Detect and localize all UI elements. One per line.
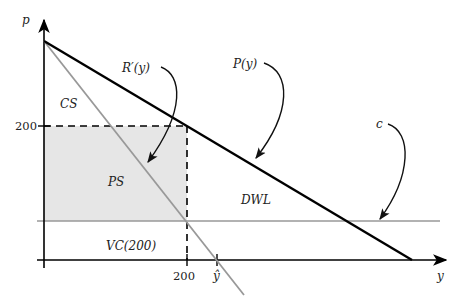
x-tick-label-y-hat: ŷ [212,269,220,283]
producer-surplus-region [44,126,187,221]
x-axis-label: y [436,269,444,283]
y-axis-label: p [22,13,30,27]
variable-cost-label: VC(200) [106,239,156,253]
marginal-cost-label: c [376,117,383,131]
demand-label: P(y) [232,57,258,71]
x-tick-label-200: 200 [173,269,195,283]
monopoly-diagram: p y 200 200 ŷ R′(y) P(y) c CS PS DWL VC(… [0,0,466,307]
y-tick-label-200: 200 [15,119,37,133]
deadweight-loss-label: DWL [240,193,271,207]
consumer-surplus-label: CS [60,97,77,111]
marginal-cost-pointer-arrow [380,124,405,219]
producer-surplus-label: PS [107,175,124,189]
marginal-revenue-label: R′(y) [121,61,150,75]
demand-pointer-arrow [256,63,284,158]
